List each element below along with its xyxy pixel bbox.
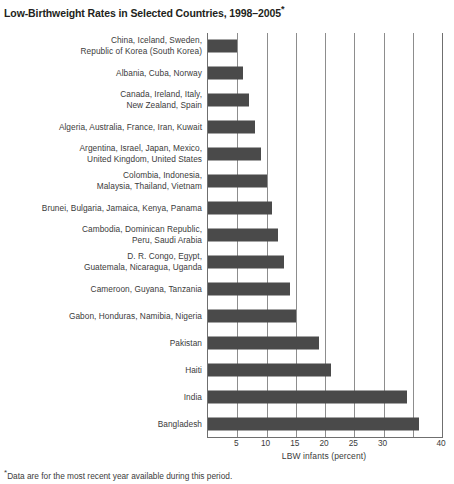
chart-title-text: Low-Birthweight Rates in Selected Countr… xyxy=(4,7,281,19)
chart-row: Canada, Ireland, Italy, New Zealand, Spa… xyxy=(0,87,454,114)
chart-row: Gabon, Honduras, Namibia, Nigeria xyxy=(0,302,454,329)
bar xyxy=(208,67,243,80)
category-label: Cambodia, Dominican Republic, Peru, Saud… xyxy=(82,224,202,246)
chart-row: Pakistan xyxy=(0,329,454,356)
bar-rows-container: China, Iceland, Sweden, Republic of Kore… xyxy=(0,33,454,437)
x-axis-title: LBW infants (percent) xyxy=(207,451,441,461)
category-label: Colombia, Indonesia, Malaysia, Thailand,… xyxy=(97,170,202,192)
chart-row: Colombia, Indonesia, Malaysia, Thailand,… xyxy=(0,168,454,195)
bar xyxy=(208,94,249,107)
category-label: Brunei, Bulgaria, Jamaica, Kenya, Panama xyxy=(42,203,202,214)
bar xyxy=(208,363,331,376)
bar xyxy=(208,282,290,295)
category-label: Bangladesh xyxy=(158,418,202,429)
x-axis-tick-labels: 5101520253040 xyxy=(207,438,443,450)
bar xyxy=(208,255,284,268)
bar xyxy=(208,121,255,134)
category-label: Albania, Cuba, Norway xyxy=(116,68,202,79)
chart-row: China, Iceland, Sweden, Republic of Kore… xyxy=(0,33,454,60)
chart-row: Haiti xyxy=(0,356,454,383)
category-label: Argentina, Israel, Japan, Mexico, United… xyxy=(80,143,202,165)
footnote-text: Data are for the most recent year availa… xyxy=(7,471,232,481)
bar xyxy=(208,309,296,322)
bar xyxy=(208,148,261,161)
bar xyxy=(208,417,419,430)
x-tick-label-25: 25 xyxy=(349,438,358,448)
bar xyxy=(208,228,278,241)
category-label: D. R. Congo, Egypt, Guatemala, Nicaragua… xyxy=(84,251,202,273)
chart-row: D. R. Congo, Egypt, Guatemala, Nicaragua… xyxy=(0,248,454,275)
chart-row: Bangladesh xyxy=(0,410,454,437)
category-label: Gabon, Honduras, Namibia, Nigeria xyxy=(69,310,202,321)
x-tick-label-40: 40 xyxy=(436,438,445,448)
category-label: Canada, Ireland, Italy, New Zealand, Spa… xyxy=(120,89,202,111)
x-tick-label-30: 30 xyxy=(378,438,387,448)
bar xyxy=(208,336,319,349)
chart-row: Cambodia, Dominican Republic, Peru, Saud… xyxy=(0,222,454,249)
x-tick-label-5: 5 xyxy=(234,438,239,448)
title-footnote-marker: * xyxy=(281,4,284,14)
category-label: Pakistan xyxy=(170,337,202,348)
x-tick-label-20: 20 xyxy=(319,438,328,448)
category-label: Haiti xyxy=(185,364,202,375)
x-tick-label-15: 15 xyxy=(290,438,299,448)
chart-row: India xyxy=(0,383,454,410)
category-label: Algeria, Australia, France, Iran, Kuwait xyxy=(59,122,202,133)
bar xyxy=(208,390,407,403)
bar xyxy=(208,175,267,188)
chart-row: Cameroon, Guyana, Tanzania xyxy=(0,275,454,302)
page-title: Low-Birthweight Rates in Selected Countr… xyxy=(4,4,284,19)
x-tick-label-10: 10 xyxy=(261,438,270,448)
category-label: India xyxy=(184,391,202,402)
bar xyxy=(208,202,272,215)
footnote: *Data are for the most recent year avail… xyxy=(4,468,232,481)
chart-row: Algeria, Australia, France, Iran, Kuwait xyxy=(0,114,454,141)
chart-row: Brunei, Bulgaria, Jamaica, Kenya, Panama xyxy=(0,195,454,222)
category-label: Cameroon, Guyana, Tanzania xyxy=(91,283,202,294)
chart-row: Albania, Cuba, Norway xyxy=(0,60,454,87)
bar xyxy=(208,40,237,53)
category-label: China, Iceland, Sweden, Republic of Kore… xyxy=(81,35,202,57)
chart-row: Argentina, Israel, Japan, Mexico, United… xyxy=(0,141,454,168)
